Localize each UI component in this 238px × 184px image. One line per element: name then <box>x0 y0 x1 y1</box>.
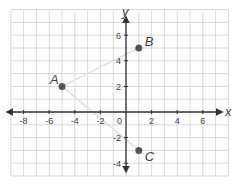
point-label-B: B <box>145 34 154 49</box>
point-B <box>135 45 142 52</box>
y-tick-label: 2 <box>116 82 121 92</box>
point-A <box>59 83 66 90</box>
x-tick-label: -8 <box>20 116 28 126</box>
y-tick-label: -4 <box>113 159 121 169</box>
y-tick-label: 4 <box>116 56 121 66</box>
x-tick-label: 4 <box>175 116 180 126</box>
origin-label: 0 <box>117 116 122 126</box>
y-tick-label: 6 <box>116 31 121 41</box>
x-tick-label: -4 <box>71 116 79 126</box>
point-label-A: A <box>49 72 59 87</box>
y-tick-label: -2 <box>113 133 121 143</box>
x-axis-label: x <box>224 104 232 119</box>
point-C <box>135 147 142 154</box>
x-tick-label: -2 <box>96 116 104 126</box>
x-tick-label: 6 <box>200 116 205 126</box>
coordinate-plane: -8-6-4-2246642-2-4 ABC x y 0 <box>0 0 238 184</box>
x-tick-label: -6 <box>45 116 53 126</box>
point-label-C: C <box>145 149 155 164</box>
x-tick-label: 2 <box>149 116 154 126</box>
y-axis-label: y <box>121 4 130 19</box>
